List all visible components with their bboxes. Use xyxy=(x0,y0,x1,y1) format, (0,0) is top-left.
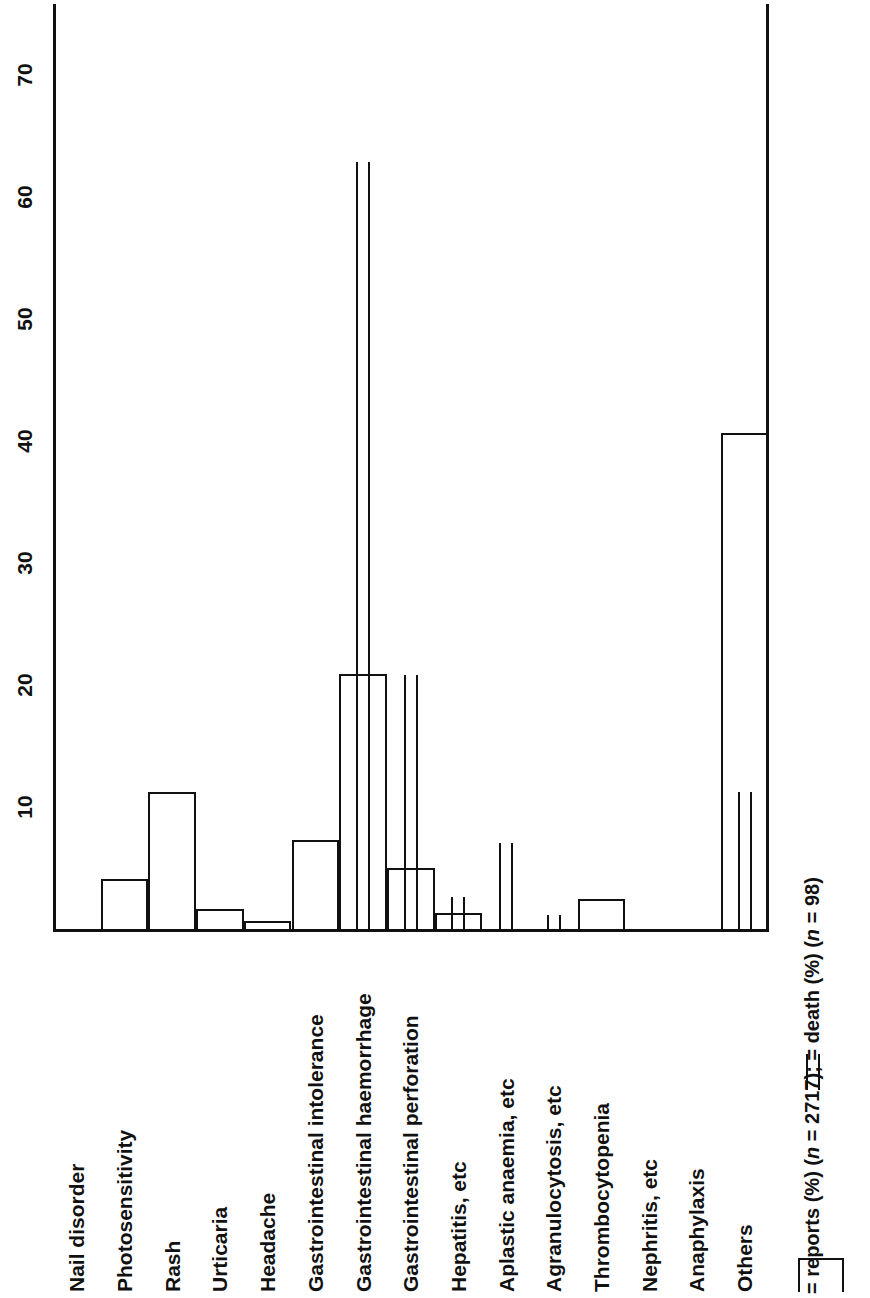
chart-page: 10203040506070 Nail disorderPhotosensiti… xyxy=(0,0,870,1298)
bar-report-5 xyxy=(292,840,340,932)
bar-death-10 xyxy=(547,915,561,931)
value-tick-20: 20 xyxy=(13,662,37,708)
category-label-8: Hepatitis, etc xyxy=(448,1161,469,1292)
value-tick-70: 70 xyxy=(13,52,37,98)
bar-report-3 xyxy=(196,909,244,931)
category-label-12: Nephritis, etc xyxy=(639,1159,660,1292)
bar-report-11 xyxy=(578,899,626,931)
category-label-9: Aplastic anaemia, etc xyxy=(496,1078,517,1292)
value-tick-40: 40 xyxy=(13,418,37,464)
legend-text: = reports (%) (n = 2717); = death (%) (n… xyxy=(802,877,822,1294)
category-label-11: Thrombocytopenia xyxy=(591,1103,612,1292)
bar-report-13 xyxy=(673,930,721,932)
bar-report-0 xyxy=(53,929,101,931)
category-label-6: Gastrointestinal haemorrhage xyxy=(353,993,374,1292)
category-label-14: Others xyxy=(734,1224,755,1292)
category-label-1: Photosensitivity xyxy=(114,1130,135,1292)
category-label-13: Anaphylaxis xyxy=(686,1168,707,1292)
category-label-5: Gastrointestinal intolerance xyxy=(305,1014,326,1292)
category-label-2: Rash xyxy=(162,1241,183,1292)
chart-legend: = reports (%) (n = 2717); = death (%) (n… xyxy=(770,940,870,1298)
bar-death-8 xyxy=(451,897,465,931)
value-tick-50: 50 xyxy=(13,296,37,342)
category-axis-labels: Nail disorderPhotosensitivityRashUrticar… xyxy=(0,940,790,1298)
bar-death-7 xyxy=(404,675,418,931)
category-label-0: Nail disorder xyxy=(66,1164,87,1292)
value-axis-line xyxy=(53,4,56,932)
category-label-3: Urticaria xyxy=(209,1207,230,1292)
bar-report-2 xyxy=(148,792,196,931)
bar-death-6 xyxy=(356,162,370,931)
category-label-4: Headache xyxy=(257,1193,278,1292)
bar-report-4 xyxy=(244,921,292,931)
bar-death-14 xyxy=(738,792,752,931)
category-label-10: Agranulocytosis, etc xyxy=(543,1085,564,1292)
value-tick-10: 10 xyxy=(13,784,37,830)
bar-death-9 xyxy=(499,843,513,931)
value-tick-30: 30 xyxy=(13,540,37,586)
plot-area: 10203040506070 xyxy=(0,0,790,940)
bar-report-1 xyxy=(101,879,149,931)
value-tick-60: 60 xyxy=(13,174,37,220)
category-label-7: Gastrointestinal perforation xyxy=(400,1015,421,1292)
bar-report-12 xyxy=(625,930,673,932)
